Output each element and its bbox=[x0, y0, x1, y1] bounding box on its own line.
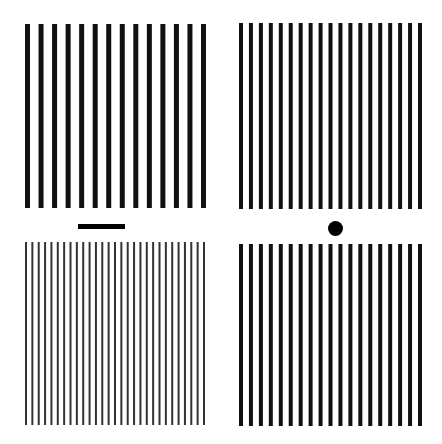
horizontal-bar-marker bbox=[78, 224, 125, 229]
grating-bottom-left bbox=[25, 242, 205, 425]
grating-bar bbox=[388, 244, 392, 426]
grating-bar bbox=[249, 244, 253, 426]
grating-bar bbox=[418, 244, 422, 426]
grating-bar bbox=[187, 24, 192, 208]
grating-bar bbox=[329, 23, 333, 209]
grating-bar bbox=[418, 23, 422, 209]
grating-bar bbox=[408, 23, 412, 209]
grating-bar bbox=[388, 23, 392, 209]
grating-bar bbox=[108, 242, 110, 425]
grating-bar bbox=[289, 244, 293, 426]
grating-bar bbox=[76, 242, 78, 425]
grating-bar bbox=[160, 24, 165, 208]
grating-bar bbox=[147, 24, 152, 208]
grating-bar bbox=[348, 244, 352, 426]
grating-top-left bbox=[25, 24, 206, 208]
grating-bar bbox=[127, 242, 129, 425]
grating-bar bbox=[174, 24, 179, 208]
grating-bar bbox=[63, 242, 65, 425]
grating-bar bbox=[133, 242, 135, 425]
grating-bar bbox=[38, 242, 40, 425]
grating-bar bbox=[120, 242, 122, 425]
grating-bar bbox=[39, 24, 44, 208]
grating-bar bbox=[165, 242, 167, 425]
dot-marker bbox=[328, 221, 343, 236]
grating-bar bbox=[299, 244, 303, 426]
grating-bar bbox=[398, 244, 402, 426]
grating-bar bbox=[269, 244, 273, 426]
grating-bar bbox=[178, 242, 180, 425]
grating-bar bbox=[269, 23, 273, 209]
grating-bar bbox=[114, 242, 116, 425]
grating-bar bbox=[279, 23, 283, 209]
grating-bottom-right bbox=[239, 244, 422, 426]
grating-bar bbox=[184, 242, 186, 425]
grating-bar bbox=[201, 24, 206, 208]
grating-bar bbox=[50, 242, 52, 425]
grating-bar bbox=[106, 24, 111, 208]
grating-bar bbox=[89, 242, 91, 425]
grating-bar bbox=[368, 244, 372, 426]
grating-bar bbox=[79, 24, 84, 208]
grating-bar bbox=[152, 242, 154, 425]
grating-bar bbox=[319, 23, 323, 209]
grating-bar bbox=[338, 23, 342, 209]
grating-bar bbox=[44, 242, 46, 425]
grating-bar bbox=[348, 23, 352, 209]
grating-bar bbox=[259, 244, 263, 426]
grating-bar bbox=[203, 242, 205, 425]
grating-bar bbox=[25, 24, 30, 208]
grating-bar bbox=[95, 242, 97, 425]
grating-bar bbox=[358, 244, 362, 426]
grating-bar bbox=[139, 242, 141, 425]
grating-bar bbox=[279, 244, 283, 426]
grating-bar bbox=[159, 242, 161, 425]
grating-top-right bbox=[239, 23, 422, 209]
grating-bar bbox=[378, 23, 382, 209]
grating-bar bbox=[171, 242, 173, 425]
grating-bar bbox=[70, 242, 72, 425]
grating-bar bbox=[133, 24, 138, 208]
grating-bar bbox=[319, 244, 323, 426]
grating-bar bbox=[25, 242, 27, 425]
grating-bar bbox=[249, 23, 253, 209]
grating-bar bbox=[197, 242, 199, 425]
grating-bar bbox=[378, 244, 382, 426]
grating-bar bbox=[82, 242, 84, 425]
grating-bar bbox=[289, 23, 293, 209]
grating-bar bbox=[120, 24, 125, 208]
grating-bar bbox=[57, 242, 59, 425]
grating-bar bbox=[299, 23, 303, 209]
grating-bar bbox=[368, 23, 372, 209]
grating-bar bbox=[259, 23, 263, 209]
grating-bar bbox=[309, 244, 313, 426]
grating-bar bbox=[93, 24, 98, 208]
grating-bar bbox=[239, 244, 243, 426]
grating-bar bbox=[146, 242, 148, 425]
grating-bar bbox=[101, 242, 103, 425]
grating-bar bbox=[31, 242, 33, 425]
grating-bar bbox=[358, 23, 362, 209]
grating-bar bbox=[309, 23, 313, 209]
grating-bar bbox=[408, 244, 412, 426]
grating-bar bbox=[338, 244, 342, 426]
grating-bar bbox=[329, 244, 333, 426]
grating-bar bbox=[398, 23, 402, 209]
grating-bar bbox=[52, 24, 57, 208]
grating-bar bbox=[190, 242, 192, 425]
grating-bar bbox=[239, 23, 243, 209]
grating-bar bbox=[66, 24, 71, 208]
